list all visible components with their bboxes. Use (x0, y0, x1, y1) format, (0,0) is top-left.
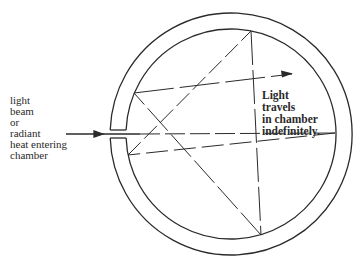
entry-label-line: chamber (10, 150, 67, 161)
entry-arrow (66, 131, 140, 137)
travel-label: Light travels in chamber indefinitely. (262, 89, 320, 137)
entry-label: light beam or radiant heat entering cham… (10, 95, 67, 161)
continue-arrow-head (281, 71, 293, 78)
travel-label-line: indefinitely. (262, 125, 320, 137)
travel-label-line: travels (262, 101, 320, 113)
travel-label-line: Light (262, 89, 320, 101)
travel-label-line: in chamber (262, 113, 320, 125)
